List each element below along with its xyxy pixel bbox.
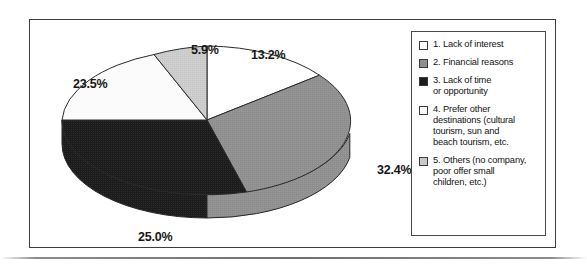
legend-swatch-icon-2: [419, 59, 428, 68]
legend-item-5: 5. Others (no company, poor offer small …: [419, 155, 540, 188]
legend-label-2: 2. Financial reasons: [433, 57, 513, 68]
legend-item-1: 1. Lack of interest: [419, 39, 540, 50]
legend-label-3: 3. Lack of time or opportunity: [433, 75, 491, 97]
legend-label-1: 1. Lack of interest: [433, 39, 504, 50]
pie-label-slice-4: 23.5%: [73, 77, 107, 91]
bottom-divider: [0, 257, 587, 259]
pie-top-faces: [62, 46, 351, 195]
legend-swatch-icon-5: [419, 157, 428, 166]
legend-swatch-icon-3: [419, 77, 428, 86]
legend-label-4: 4. Prefer other destinations (cultural t…: [433, 104, 515, 148]
pie-label-slice-3: 25.0%: [138, 230, 172, 244]
legend-label-5: 5. Others (no company, poor offer small …: [433, 155, 526, 188]
pie-label-slice-1: 13.2%: [251, 48, 285, 62]
pie-chart-svg: [29, 19, 409, 248]
legend-swatch-icon-4: [419, 106, 428, 115]
legend: 1. Lack of interest 2. Financial reasons…: [411, 31, 546, 236]
pie-chart: 13.2% 32.4% 25.0% 23.5% 5.9%: [29, 19, 409, 248]
pie-label-slice-2: 32.4%: [377, 163, 411, 177]
legend-item-3: 3. Lack of time or opportunity: [419, 75, 540, 97]
pie-label-slice-5: 5.9%: [191, 43, 219, 57]
legend-item-2: 2. Financial reasons: [419, 57, 540, 68]
legend-item-4: 4. Prefer other destinations (cultural t…: [419, 104, 540, 148]
legend-swatch-icon-1: [419, 41, 428, 50]
